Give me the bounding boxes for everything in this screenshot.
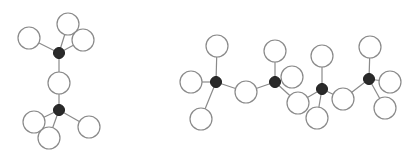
outer-atom-circle [311, 45, 333, 67]
outer-atom-circle [264, 40, 286, 62]
center-atom-dot [317, 84, 328, 95]
outer-atom-circle [72, 29, 94, 51]
center-atom-dot [211, 77, 222, 88]
outer-atom-circle [18, 27, 40, 49]
outer-atom-circle [38, 127, 60, 149]
outer-atom-circle [235, 81, 257, 103]
outer-atom-circle [287, 92, 309, 114]
molecule-left-atoms [18, 13, 100, 149]
outer-atom-circle [48, 72, 70, 94]
molecule-right-atoms [180, 35, 401, 130]
molecule-diagram [0, 0, 416, 165]
outer-atom-circle [78, 116, 100, 138]
outer-atom-circle [206, 35, 228, 57]
outer-atom-circle [180, 71, 202, 93]
outer-atom-circle [281, 66, 303, 88]
center-atom-dot [364, 74, 375, 85]
center-atom-dot [54, 105, 65, 116]
outer-atom-circle [306, 107, 328, 129]
outer-atom-circle [379, 71, 401, 93]
center-atom-dot [270, 77, 281, 88]
center-atom-dot [54, 48, 65, 59]
outer-atom-circle [374, 97, 396, 119]
atoms-layer [18, 13, 401, 149]
outer-atom-circle [190, 108, 212, 130]
outer-atom-circle [359, 36, 381, 58]
outer-atom-circle [332, 88, 354, 110]
